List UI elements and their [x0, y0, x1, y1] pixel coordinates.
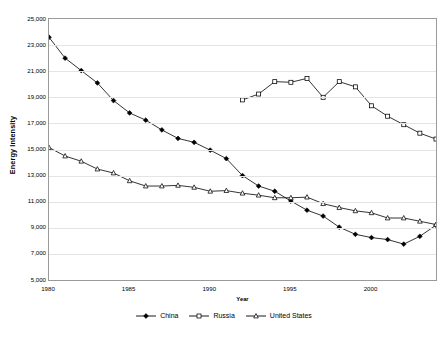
- legend-marker-icon: [188, 311, 210, 321]
- plot-inner: [49, 19, 436, 280]
- data-point: [273, 80, 277, 84]
- data-point: [95, 167, 100, 171]
- legend-label: United States: [270, 311, 312, 321]
- x-axis-tick-label: 1980: [28, 284, 68, 293]
- legend-item-china[interactable]: China: [135, 311, 178, 321]
- x-axis-tick-label: 1985: [109, 284, 149, 293]
- energy-intensity-line-chart: Energy Intensity 25,00023,00021,00019,00…: [0, 0, 447, 340]
- data-point: [257, 92, 261, 96]
- data-point: [370, 104, 374, 108]
- y-axis-tick-label: 19,000: [16, 93, 46, 100]
- legend-label: China: [160, 311, 178, 321]
- y-axis-tick-label: 11,000: [16, 197, 46, 204]
- gridline: [49, 228, 436, 229]
- x-axis-tick-label: 1995: [270, 284, 310, 293]
- data-point: [192, 140, 197, 145]
- data-point: [385, 237, 390, 242]
- legend-marker-icon: [245, 311, 267, 321]
- data-point: [434, 137, 436, 141]
- data-point: [241, 98, 245, 102]
- series-united-states: [49, 145, 436, 226]
- series-line: [49, 37, 436, 244]
- series-line: [243, 78, 437, 139]
- y-axis-tick-label: 13,000: [16, 171, 46, 178]
- y-axis-tick-label: 21,000: [16, 67, 46, 74]
- gridline: [49, 176, 436, 177]
- data-point: [49, 145, 51, 149]
- data-point: [63, 154, 68, 158]
- legend-label: Russia: [213, 311, 234, 321]
- data-point: [289, 80, 293, 84]
- data-point: [305, 76, 309, 80]
- x-axis-tick-label: 2000: [351, 284, 391, 293]
- gridline: [49, 202, 436, 203]
- gridline: [49, 150, 436, 151]
- data-point: [272, 189, 277, 194]
- y-axis-tick-label: 5,000: [16, 276, 46, 283]
- y-axis-tick-label: 25,000: [16, 15, 46, 22]
- data-point: [256, 184, 261, 189]
- data-point: [417, 234, 422, 239]
- plot-area: [48, 18, 437, 281]
- data-point: [353, 232, 358, 237]
- data-point: [127, 178, 132, 182]
- x-axis-tick-label: 1990: [189, 284, 229, 293]
- y-axis-tick-label: 23,000: [16, 41, 46, 48]
- y-axis-tick-label: 7,000: [16, 249, 46, 256]
- gridline: [49, 123, 436, 124]
- legend-item-united-states[interactable]: United States: [245, 311, 312, 321]
- series-line: [49, 148, 436, 225]
- data-point: [305, 208, 310, 213]
- data-point: [401, 242, 406, 247]
- y-axis-tick-label: 17,000: [16, 119, 46, 126]
- gridline: [49, 254, 436, 255]
- legend-marker-icon: [135, 311, 157, 321]
- data-point: [176, 136, 181, 141]
- y-axis-tick-label: 9,000: [16, 223, 46, 230]
- data-point: [321, 214, 326, 219]
- series-russia: [241, 76, 437, 141]
- gridline: [49, 97, 436, 98]
- data-point: [386, 114, 390, 118]
- data-point: [337, 80, 341, 84]
- data-point: [143, 118, 148, 123]
- data-point: [353, 85, 357, 89]
- data-point: [369, 235, 374, 240]
- data-point: [418, 131, 422, 135]
- legend-item-russia[interactable]: Russia: [188, 311, 234, 321]
- x-axis-title: Year: [48, 295, 437, 303]
- y-axis-tick-label: 15,000: [16, 145, 46, 152]
- gridline: [49, 71, 436, 72]
- chart-legend: ChinaRussiaUnited States: [0, 308, 447, 324]
- gridline: [49, 45, 436, 46]
- data-point: [159, 128, 164, 133]
